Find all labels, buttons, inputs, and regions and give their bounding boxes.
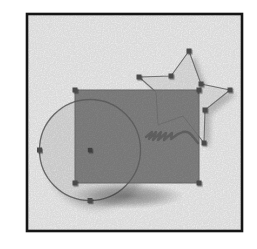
scan-grain-overlay (28, 15, 241, 230)
drawing-canvas[interactable] (0, 0, 257, 249)
screenshot-root (0, 0, 257, 249)
